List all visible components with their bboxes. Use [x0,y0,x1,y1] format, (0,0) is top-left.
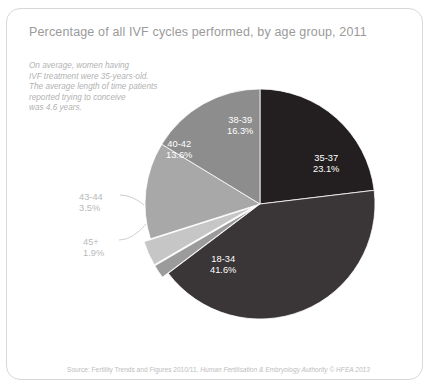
slice-value-35-37: 23.1% [313,164,339,175]
slice-label-18-34: 18-3441.6% [210,254,236,277]
slice-label-38-39: 38-3916.3% [227,115,253,138]
slice-label-40-42: 40-4213.6% [166,139,192,162]
slice-value-18-34: 41.6% [210,265,236,276]
slice-value-40-42: 13.6% [166,150,192,161]
slice-label-35-37: 35-3723.1% [313,153,339,176]
slice-label-45-: 45+1.9% [83,237,104,260]
slice-name-35-37: 35-37 [313,153,339,164]
slice-name-43-44: 43-44 [79,192,103,203]
slice-value-43-44: 3.5% [79,203,103,214]
slice-label-43-44: 43-443.5% [79,192,103,215]
source-publisher: Human Fertilisation & Embryology Authori… [200,366,370,373]
slice-value-45-: 1.9% [83,248,104,259]
source-prefix: Source: Fertility Trends and Figures 201… [67,366,200,373]
slice-name-45-: 45+ [83,237,104,248]
pie-chart [7,9,424,381]
leader-line-45-plus [119,224,146,240]
slice-name-38-39: 38-39 [227,115,253,126]
slice-name-18-34: 18-34 [210,254,236,265]
chart-card: Percentage of all IVF cycles performed, … [6,8,423,380]
slice-name-40-42: 40-42 [166,139,192,150]
source-credit: Source: Fertility Trends and Figures 201… [67,366,370,373]
pie-slice-35-37[interactable] [260,89,374,204]
slice-value-38-39: 16.3% [227,126,253,137]
pie-chart-svg [7,9,424,381]
leader-line-43-44 [120,195,144,205]
